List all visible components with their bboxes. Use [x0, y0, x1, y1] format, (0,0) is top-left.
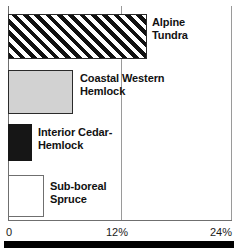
bar-label-sub-boreal-spruce: Sub-boreal Spruce	[50, 180, 106, 205]
bar-label-coastal-western-hemlock: Coastal Western Hemlock	[80, 72, 165, 97]
plot-area: Alpine Tundra Coastal Western Hemlock In…	[0, 0, 238, 222]
x-tick-label-24-percent: 24%	[210, 226, 232, 239]
bar-sub-boreal-spruce	[8, 175, 44, 217]
bar-label-alpine-tundra: Alpine Tundra	[152, 16, 188, 41]
bar-label-interior-cedar-hemlock: Interior Cedar- Hemlock	[38, 126, 112, 151]
x-tick-label-12-percent: 12%	[106, 226, 128, 239]
bar-chart: Alpine Tundra Coastal Western Hemlock In…	[0, 0, 238, 250]
bar-coastal-western-hemlock	[8, 70, 73, 114]
gridline-24-percent	[231, 6, 232, 221]
bottom-band	[4, 241, 234, 248]
x-tick-label-0: 0	[6, 226, 12, 239]
bar-alpine-tundra	[8, 14, 147, 59]
x-axis-line	[8, 220, 232, 221]
bar-interior-cedar-hemlock	[8, 124, 32, 161]
